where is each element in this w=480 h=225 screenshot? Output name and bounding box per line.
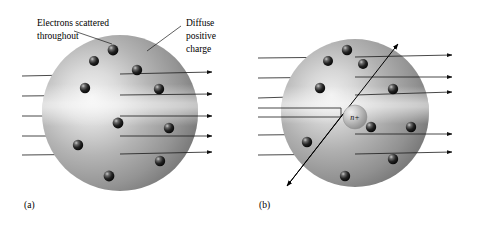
electron	[366, 122, 376, 132]
electron	[315, 83, 325, 93]
diffuse-charge-label-line3: charge	[186, 44, 211, 54]
electron	[73, 140, 83, 150]
electron	[388, 154, 398, 164]
nucleus-label: n+	[350, 113, 359, 122]
electrons-scattered-label-line1: Electrons scattered	[37, 18, 109, 28]
figure-canvas: Electrons scattered throughout Diffuse p…	[0, 0, 480, 225]
electron	[132, 65, 142, 75]
leader-line	[147, 26, 181, 51]
electron	[342, 45, 352, 55]
diffuse-charge-leader	[147, 26, 181, 51]
electron	[358, 59, 368, 69]
electron	[154, 84, 164, 94]
electron	[155, 156, 165, 166]
electron	[104, 171, 115, 182]
electron	[388, 84, 398, 94]
panel-b: n+ (b)	[258, 39, 452, 211]
electron	[406, 122, 416, 132]
electron	[302, 137, 312, 147]
electron	[89, 56, 99, 66]
atomic-models-figure: Electrons scattered throughout Diffuse p…	[0, 0, 480, 225]
nucleus-label-text: n+	[350, 113, 359, 122]
electron	[113, 118, 124, 129]
panel-label-b: (b)	[259, 200, 270, 211]
electrons-scattered-label-line2: throughout	[37, 31, 79, 41]
electron	[164, 123, 174, 133]
electron	[108, 45, 119, 56]
electron	[80, 83, 90, 93]
panel-label-a: (a)	[24, 200, 35, 211]
diffuse-charge-label-line2: positive	[186, 31, 216, 41]
diffuse-charge-label-line1: Diffuse	[186, 18, 214, 28]
electron	[323, 56, 333, 66]
panel-a: Electrons scattered throughout Diffuse p…	[22, 18, 216, 211]
electron	[340, 171, 350, 181]
